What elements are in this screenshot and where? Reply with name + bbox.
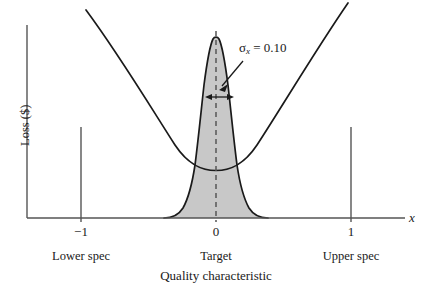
upper-spec-label: Upper spec — [301, 249, 401, 264]
target-label: Target — [166, 249, 266, 264]
x-axis-title: Quality characteristic — [116, 268, 316, 284]
x-tick-label-lower: −1 — [61, 224, 101, 240]
sigma-width-arrowhead-right — [227, 94, 234, 100]
sigma-value: 0.10 — [264, 40, 287, 55]
loss-function-figure: Loss ($) x −1 0 1 Lower spec Target Uppe… — [0, 0, 422, 287]
plot-area — [0, 0, 422, 287]
sigma-annotation: σx = 0.10 — [239, 40, 287, 56]
process-distribution-area — [164, 37, 268, 218]
x-axis-symbol: x — [409, 210, 415, 226]
lower-spec-label: Lower spec — [31, 249, 131, 264]
y-axis-label: Loss ($) — [18, 105, 33, 146]
sigma-symbol: σ — [239, 40, 246, 55]
sigma-subscript: x — [246, 46, 250, 56]
sigma-equals: = — [253, 40, 260, 55]
x-tick-label-target: 0 — [196, 224, 236, 240]
x-tick-label-upper: 1 — [331, 224, 371, 240]
